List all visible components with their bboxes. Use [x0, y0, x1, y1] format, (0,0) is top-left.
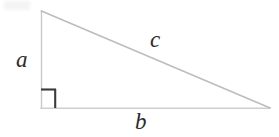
label-side-c: c: [150, 28, 160, 51]
right-angle-marker: [41, 89, 56, 108]
hypotenuse-c-line: [42, 11, 271, 108]
label-side-b: b: [135, 110, 147, 133]
label-side-a: a: [16, 48, 28, 71]
right-triangle-figure: a c b: [0, 0, 279, 137]
